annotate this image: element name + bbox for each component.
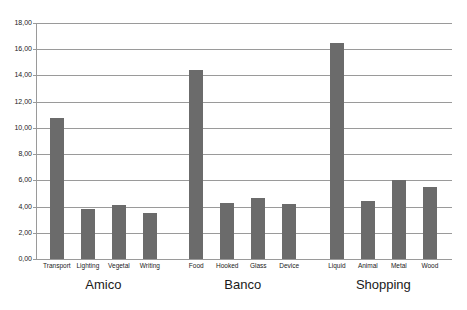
category-label: Animal xyxy=(358,262,378,269)
category-label: Vegetal xyxy=(108,262,130,269)
bar xyxy=(423,187,437,259)
bar-chart: 0,002,004,006,008,0010,0012,0014,0016,00… xyxy=(0,0,467,310)
group-label: Banco xyxy=(224,277,261,292)
bar xyxy=(189,70,203,259)
bar xyxy=(330,43,344,259)
bar xyxy=(251,198,265,259)
y-tick-label: 4,00 xyxy=(18,203,32,210)
bar xyxy=(143,213,157,259)
category-label: Glass xyxy=(250,262,267,269)
y-tick-label: 16,00 xyxy=(14,45,32,52)
bar xyxy=(81,209,95,259)
bar xyxy=(50,118,64,259)
y-tick-label: 0,00 xyxy=(18,255,32,262)
category-label: Metal xyxy=(391,262,407,269)
bar xyxy=(392,180,406,259)
category-label: Hooked xyxy=(216,262,238,269)
y-tick-label: 6,00 xyxy=(18,176,32,183)
bar xyxy=(220,203,234,259)
gridline xyxy=(36,259,452,260)
category-label: Liquid xyxy=(328,262,345,269)
y-tick-mark xyxy=(33,259,36,260)
y-tick-label: 12,00 xyxy=(14,98,32,105)
bar xyxy=(282,204,296,259)
y-tick-label: 10,00 xyxy=(14,124,32,131)
category-label: Lighting xyxy=(77,262,100,269)
category-label: Food xyxy=(189,262,204,269)
category-label: Transport xyxy=(43,262,71,269)
category-label: Wood xyxy=(421,262,438,269)
category-label: Writing xyxy=(140,262,160,269)
group-label: Amico xyxy=(85,277,121,292)
bar xyxy=(112,205,126,259)
y-tick-label: 2,00 xyxy=(18,229,32,236)
plot-area xyxy=(36,23,452,259)
category-label: Device xyxy=(279,262,299,269)
group-label: Shopping xyxy=(356,277,411,292)
bar xyxy=(361,201,375,259)
y-tick-label: 8,00 xyxy=(18,150,32,157)
y-tick-label: 14,00 xyxy=(14,71,32,78)
y-tick-label: 18,00 xyxy=(14,19,32,26)
